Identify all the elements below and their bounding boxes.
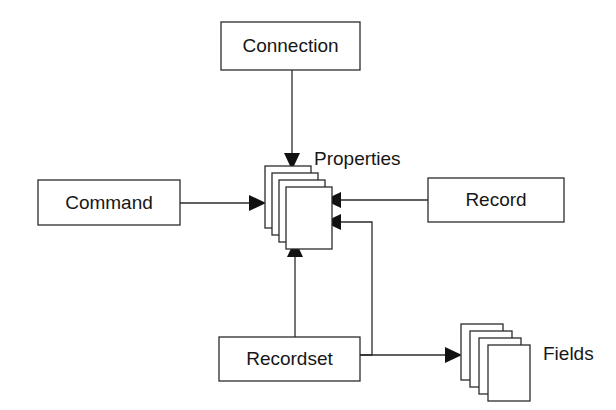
node-label: Recordset — [246, 348, 333, 369]
node-label: Record — [465, 189, 526, 210]
node-recordset[interactable]: Recordset — [219, 337, 360, 381]
stack-card-front — [488, 345, 530, 401]
edge-recordset-to-fields — [360, 347, 462, 363]
node-label: Connection — [242, 35, 338, 56]
edge-connection-to-properties — [284, 70, 300, 170]
node-label: Fields — [543, 343, 594, 364]
edge-command-to-properties — [180, 195, 266, 211]
edge-recordset-to-properties-vertical — [287, 240, 303, 337]
node-label: Command — [65, 192, 153, 213]
node-fields[interactable]: Fields — [461, 324, 594, 401]
node-record[interactable]: Record — [428, 178, 564, 222]
arrow-head-right — [445, 347, 462, 363]
diagram-canvas: Connection Command Record Recordset Prop… — [0, 0, 616, 410]
node-connection[interactable]: Connection — [221, 22, 360, 70]
node-command[interactable]: Command — [38, 180, 180, 225]
arrow-head-right — [249, 195, 266, 211]
node-label: Properties — [314, 148, 401, 169]
edge-record-to-properties — [324, 192, 428, 208]
stack-card-front — [286, 187, 332, 249]
object-model-diagram: Connection Command Record Recordset Prop… — [0, 0, 616, 410]
edge-path — [332, 222, 372, 355]
